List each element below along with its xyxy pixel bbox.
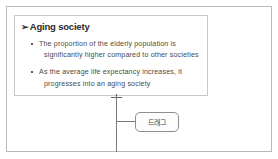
connector-vertical-line xyxy=(116,96,117,152)
content-heading-label: Aging society xyxy=(30,21,90,32)
list-item-line: As the average life expectancy increases… xyxy=(39,67,207,78)
list-item-line: The proportion of the elderly population… xyxy=(39,39,207,50)
list-item: The proportion of the elderly population… xyxy=(31,39,207,61)
square-bullet-icon xyxy=(31,43,33,45)
list-item-line: progresses into an aging society xyxy=(39,79,207,90)
drag-callout-box[interactable]: 드래그 xyxy=(135,112,179,132)
content-text-box[interactable]: ➢Aging society The proportion of the eld… xyxy=(14,15,208,96)
chevron-right-icon: ➢ xyxy=(21,22,29,32)
slide-frame: ➢Aging society The proportion of the eld… xyxy=(6,6,272,152)
connector-horizontal-line xyxy=(117,121,135,122)
content-heading: ➢Aging society xyxy=(21,21,90,32)
list-item: As the average life expectancy increases… xyxy=(31,67,207,89)
square-bullet-icon xyxy=(31,71,33,73)
bullet-list: The proportion of the elderly population… xyxy=(31,39,207,96)
list-item-line: significantly higher compared to other s… xyxy=(39,50,207,61)
drag-callout-label: 드래그 xyxy=(148,117,165,127)
